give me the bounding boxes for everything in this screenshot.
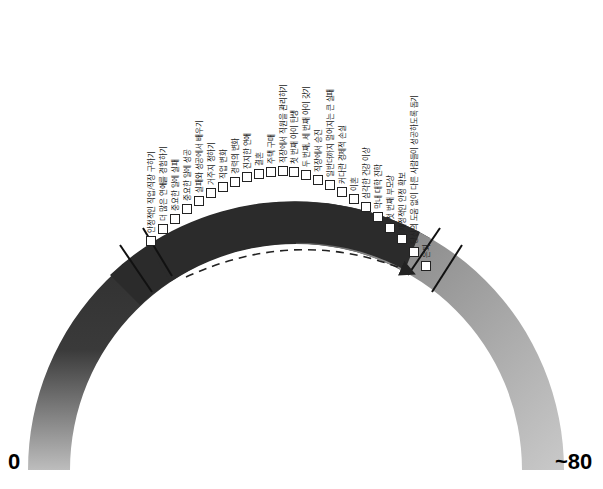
life-arc-diagram: [0, 0, 603, 489]
event-checkbox[interactable]: [229, 177, 239, 187]
event-item[interactable]: 중요한 일에 실패: [169, 159, 180, 224]
event-item[interactable]: 실패와 성공에서 배우기: [193, 120, 204, 205]
event-item[interactable]: 재정적인 안정 확보: [396, 173, 407, 245]
axis-end-label: ~80: [555, 449, 592, 475]
event-checkbox[interactable]: [265, 167, 275, 177]
event-checkbox[interactable]: [157, 224, 167, 234]
event-checkbox[interactable]: [385, 223, 395, 233]
event-label: 직장에서 직원을 관리하기: [277, 84, 288, 163]
event-item[interactable]: 더 많은 연애를 경험하기: [157, 147, 168, 235]
event-checkbox[interactable]: [205, 188, 215, 198]
event-label: 일반더까지 멀어지는 큰 실패: [324, 89, 335, 177]
event-checkbox[interactable]: [169, 214, 179, 224]
event-item[interactable]: 심각한 건강 이상: [360, 147, 371, 212]
event-checkbox[interactable]: [241, 172, 251, 182]
event-checkbox[interactable]: [277, 166, 287, 176]
event-label: 결혼: [253, 153, 264, 167]
event-item[interactable]: 직업 변화: [217, 150, 228, 192]
event-label: 커다란 경제적 손실: [336, 125, 347, 184]
event-item[interactable]: 직장에서 직원을 관리하기: [277, 84, 288, 176]
event-item[interactable]: 진지한 연애: [241, 133, 252, 182]
event-checkbox[interactable]: [361, 202, 371, 212]
event-label: 이혼: [348, 177, 359, 191]
event-checkbox[interactable]: [337, 187, 347, 197]
event-label: 직장에서 승진: [312, 129, 323, 172]
event-item[interactable]: 이혼: [348, 177, 359, 204]
event-label: 거주지 정하기: [205, 142, 216, 185]
event-label: 진지한 연애: [241, 133, 252, 169]
event-label: 심각한 건강 이상: [360, 147, 371, 199]
event-label: 주택 구매: [265, 135, 276, 164]
event-item[interactable]: 경력의 변화: [229, 137, 240, 186]
event-checkbox[interactable]: [301, 170, 311, 180]
event-checkbox[interactable]: [253, 169, 263, 179]
event-item[interactable]: 첫 번째 부모상: [384, 174, 395, 232]
event-item[interactable]: 은퇴: [420, 244, 431, 271]
event-checkbox[interactable]: [146, 236, 156, 246]
event-item[interactable]: 거주지 정하기: [205, 142, 216, 198]
event-item[interactable]: 당신의 도움 없이 다른 사람들이 성공하도록 돕기: [408, 95, 419, 257]
event-label: 첫 번째 부모상: [384, 174, 395, 219]
axis-start-label: 0: [8, 449, 20, 475]
event-checkbox[interactable]: [373, 212, 383, 222]
event-checkbox[interactable]: [421, 261, 431, 271]
event-label: 첫 번째 아이 탄생: [288, 110, 299, 164]
event-label: 더 많은 연애를 경험하기: [157, 147, 168, 222]
event-checkbox[interactable]: [217, 182, 227, 192]
event-label: 안정적인 직업/직장 구하기: [145, 151, 156, 233]
event-checkbox[interactable]: [193, 196, 203, 206]
event-checkbox[interactable]: [325, 180, 335, 190]
event-item[interactable]: 막내 대학 진학: [372, 164, 383, 222]
event-item[interactable]: 주택 구매: [265, 135, 276, 177]
event-checkbox[interactable]: [409, 247, 419, 257]
event-label: 실패와 성공에서 배우기: [193, 120, 204, 192]
event-label: 경력의 변화: [229, 137, 240, 173]
event-label: 직업 변화: [217, 150, 228, 179]
event-checkbox[interactable]: [349, 194, 359, 204]
event-label: 재정적인 안정 확보: [396, 173, 407, 232]
event-checkbox[interactable]: [181, 204, 191, 214]
event-label: 막내 대학 진학: [372, 164, 383, 209]
event-item[interactable]: 안정적인 직업/직장 구하기: [145, 151, 156, 246]
event-item[interactable]: 일반더까지 멀어지는 큰 실패: [324, 89, 335, 190]
event-label: 두 번째, 세 번째 아이 갖기: [300, 86, 311, 167]
event-item[interactable]: 첫 번째 아이 탄생: [288, 110, 299, 177]
event-checkbox[interactable]: [289, 167, 299, 177]
event-label: 중요한 일에 성공: [181, 149, 192, 201]
event-label: 당신의 도움 없이 다른 사람들이 성공하도록 돕기: [408, 95, 419, 244]
event-item[interactable]: 결혼: [253, 153, 264, 180]
event-checkbox[interactable]: [313, 175, 323, 185]
event-item[interactable]: 직장에서 승진: [312, 129, 323, 185]
event-checkbox[interactable]: [397, 234, 407, 244]
event-label: 은퇴: [420, 244, 431, 258]
event-item[interactable]: 두 번째, 세 번째 아이 갖기: [300, 86, 311, 180]
event-label: 중요한 일에 실패: [169, 159, 180, 211]
event-item[interactable]: 중요한 일에 성공: [181, 149, 192, 214]
event-item[interactable]: 커다란 경제적 손실: [336, 125, 347, 197]
